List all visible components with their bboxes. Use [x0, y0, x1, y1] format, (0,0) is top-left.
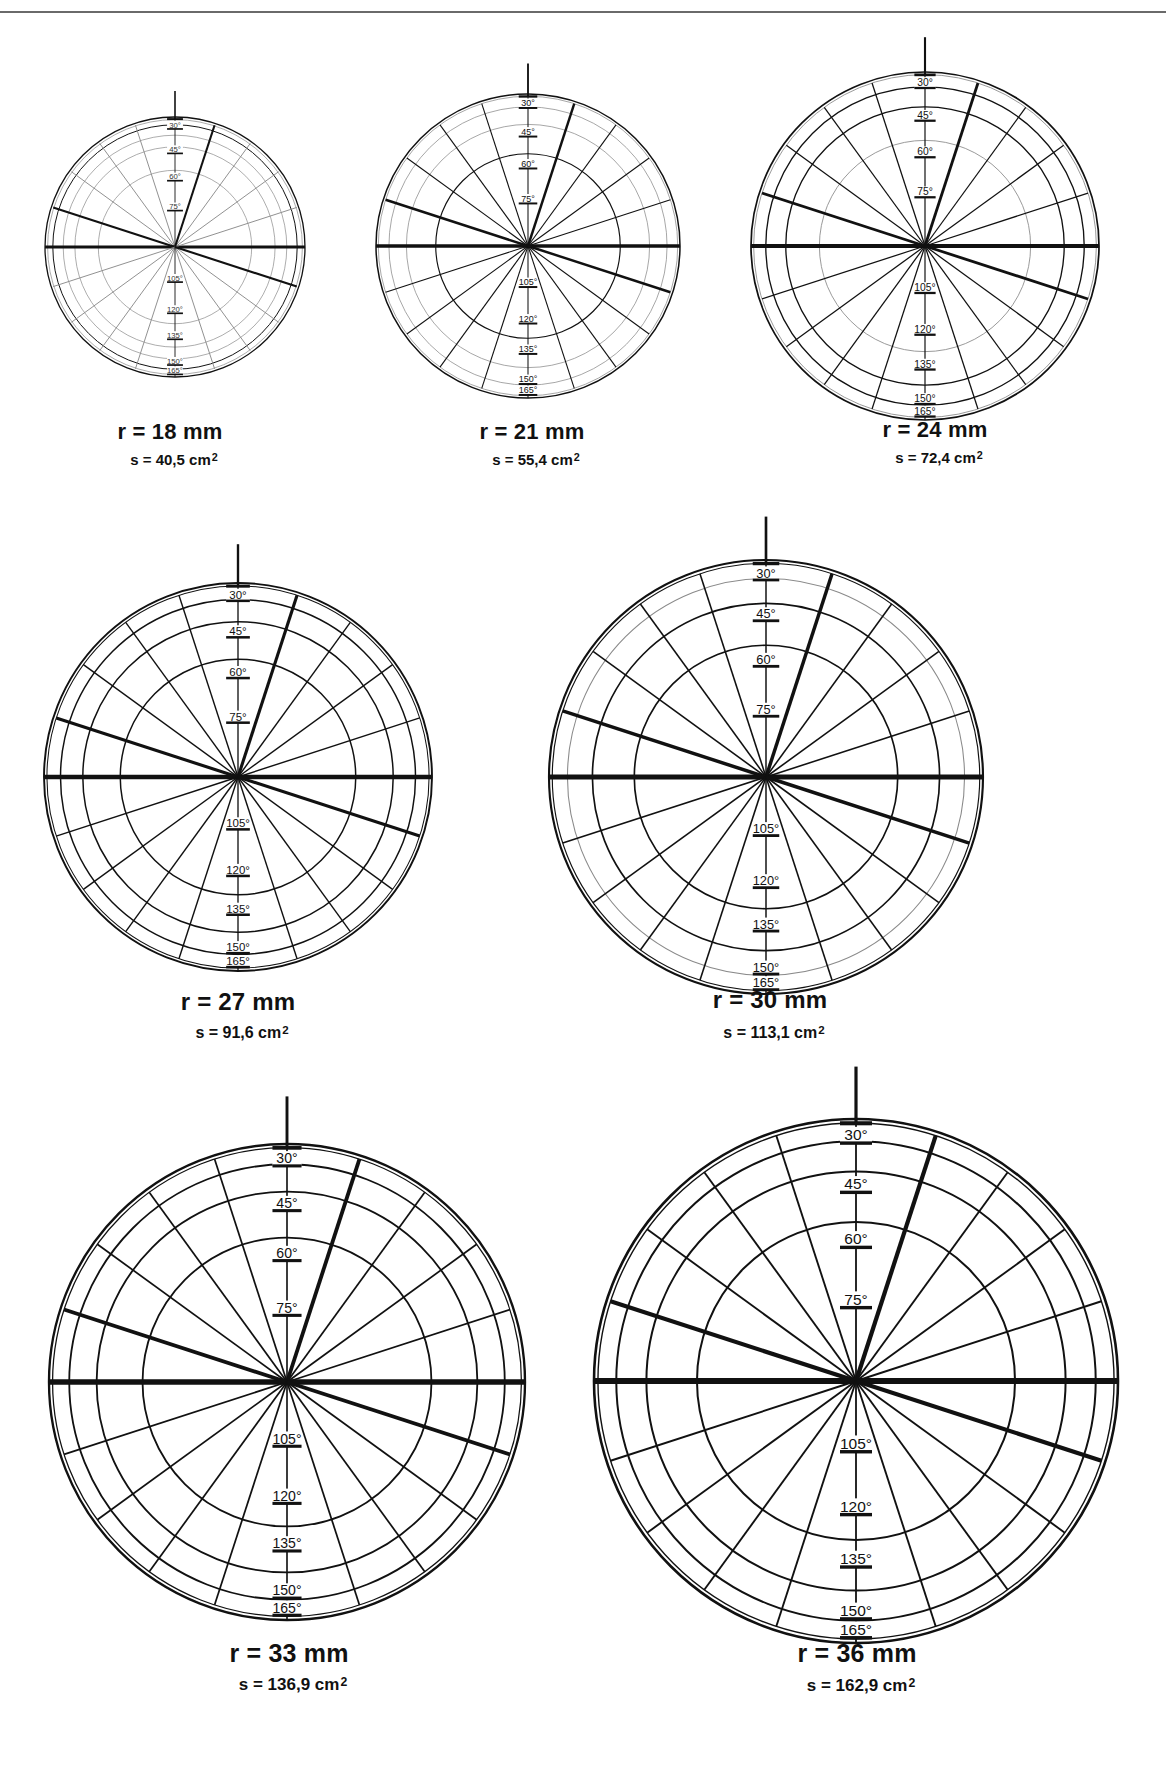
scale-label: 45°: [229, 625, 246, 637]
scale-label: 165°: [519, 385, 538, 395]
scale-label: 135°: [914, 359, 935, 370]
scale-label: 30°: [169, 121, 181, 130]
area-label: s = 113,1 cm2: [723, 1024, 824, 1042]
grid-spoke: [528, 246, 616, 367]
radius-label: r = 30 mm: [713, 986, 828, 1014]
polar-diagram-r33: 30°45°60°75°105°120°135°150°165°: [49, 1096, 525, 1620]
area-unit-exponent: 2: [282, 1024, 288, 1036]
scale-label: 60°: [917, 146, 933, 157]
grid-spoke: [925, 107, 1026, 246]
scale-label: 60°: [229, 666, 246, 678]
area-unit-exponent: 2: [340, 1675, 347, 1689]
grid-spoke: [83, 777, 238, 889]
scale-label: 30°: [844, 1126, 867, 1143]
grid-spoke: [175, 143, 250, 247]
grid-spoke: [640, 777, 766, 950]
polar-diagram-r30: 30°45°60°75°105°120°135°150°165°: [549, 517, 983, 994]
rim-bar-top: [272, 1146, 301, 1150]
grid-spoke: [238, 777, 393, 889]
grid-spoke: [856, 1229, 1065, 1381]
scale-label: 150°: [226, 941, 250, 953]
area-value: s = 113,1 cm: [723, 1024, 817, 1041]
area-label: s = 55,4 cm2: [492, 451, 580, 468]
diagram-canvas: 30°45°60°75°105°120°135°150°165°30°45°60…: [0, 0, 1166, 1775]
scale-label: 60°: [276, 1245, 297, 1261]
scale-label: 105°: [519, 277, 538, 287]
scale-label: 45°: [276, 1195, 297, 1211]
scale-label: 60°: [169, 172, 181, 181]
polar-diagram-r27: 30°45°60°75°105°120°135°150°165°: [44, 544, 432, 971]
grid-spoke: [766, 777, 939, 903]
scale-label: 45°: [521, 127, 535, 137]
scale-label: 75°: [756, 702, 775, 717]
rim-bar-top: [914, 73, 935, 76]
grid-spoke: [287, 1244, 477, 1382]
grid-spoke: [238, 622, 350, 777]
rim-bar-top: [226, 585, 250, 588]
grid-spoke: [53, 247, 175, 287]
scale-label: 60°: [756, 652, 775, 667]
reference-spoke-thick: [53, 207, 175, 247]
grid-spoke: [126, 622, 238, 777]
scale-label: 150°: [840, 1602, 872, 1619]
grid-spoke: [287, 1382, 477, 1520]
scale-label: 30°: [756, 566, 775, 581]
grid-spoke: [640, 604, 766, 777]
grid-spoke: [135, 125, 175, 247]
grid-spoke: [528, 125, 616, 246]
area-value: s = 72,4 cm: [895, 449, 975, 466]
grid-spoke: [528, 246, 649, 334]
area-value: s = 91,6 cm: [195, 1024, 281, 1041]
grid-spoke: [647, 1229, 856, 1381]
grid-spoke: [647, 1381, 856, 1533]
polar-diagram-r24: 30°45°60°75°105°120°135°150°165°: [751, 37, 1099, 420]
grid-spoke: [100, 143, 175, 247]
scale-label: 150°: [167, 357, 183, 366]
scale-label: 135°: [272, 1535, 301, 1551]
grid-spoke: [528, 158, 649, 246]
area-value: s = 55,4 cm: [492, 451, 572, 468]
area-label: s = 72,4 cm2: [895, 449, 983, 466]
grid-spoke: [925, 145, 1064, 246]
scale-label: 75°: [169, 202, 181, 211]
polar-diagram-r21: 30°45°60°75°105°120°135°150°165°: [376, 64, 680, 398]
polar-diagram-r18: 30°45°60°75°105°120°135°150°165°: [45, 91, 305, 377]
grid-spoke: [925, 246, 1064, 347]
grid-spoke: [83, 665, 238, 777]
grid-spoke: [238, 777, 350, 932]
grid-spoke: [407, 158, 528, 246]
scale-label: 60°: [521, 159, 535, 169]
scale-label: 75°: [844, 1291, 867, 1308]
scale-label: 30°: [229, 589, 246, 601]
grid-spoke: [593, 777, 766, 903]
polar-diagram-r36: 30°45°60°75°105°120°135°150°165°: [594, 1067, 1118, 1643]
grid-spoke: [71, 172, 175, 247]
rim-bar-top: [840, 1121, 872, 1125]
grid-spoke: [824, 107, 925, 246]
grid-spoke: [287, 1382, 425, 1572]
grid-spoke: [97, 1382, 287, 1520]
reference-spoke-thick: [175, 125, 215, 247]
grid-spoke: [856, 1381, 1008, 1590]
scale-label: 120°: [226, 864, 250, 876]
scale-label: 30°: [521, 98, 535, 108]
scale-label: 105°: [914, 282, 935, 293]
radius-label: r = 36 mm: [797, 1639, 916, 1668]
scale-label: 150°: [272, 1582, 301, 1598]
grid-spoke: [149, 1382, 287, 1572]
grid-spoke: [126, 777, 238, 932]
radius-label: r = 27 mm: [181, 988, 296, 1016]
area-label: s = 40,5 cm2: [130, 451, 218, 468]
grid-spoke: [786, 145, 925, 246]
grid-spoke: [175, 247, 250, 351]
grid-spoke: [440, 246, 528, 367]
area-value: s = 136,9 cm: [239, 1675, 340, 1694]
grid-spoke: [97, 1244, 287, 1382]
scale-label: 165°: [226, 955, 250, 967]
grid-spoke: [175, 247, 279, 322]
scale-label: 105°: [753, 821, 780, 836]
scale-label: 135°: [519, 344, 538, 354]
scale-label: 75°: [229, 711, 246, 723]
grid-spoke: [175, 172, 279, 247]
scale-label: 75°: [917, 186, 933, 197]
